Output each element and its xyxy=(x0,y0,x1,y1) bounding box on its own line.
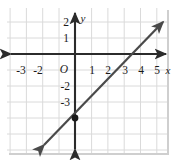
x-tick-label-1: 1 xyxy=(89,64,95,76)
coordinate-plane-figure: -3 -2 1 2 3 4 5 2 1 -2 -3 O x y xyxy=(0,0,175,161)
y-axis-label: y xyxy=(80,12,86,24)
x-axis-label: x xyxy=(165,64,171,76)
x-tick-label--2: -2 xyxy=(33,64,43,76)
x-tick-label-3: 3 xyxy=(122,64,128,76)
y-intercept-point xyxy=(72,115,79,122)
y-tick-label-1: 1 xyxy=(63,32,69,44)
x-tick-label--3: -3 xyxy=(16,64,26,76)
y-tick-label--2: -2 xyxy=(60,80,70,92)
y-tick-label-2: 2 xyxy=(63,16,69,28)
y-tick-label--3: -3 xyxy=(60,96,70,108)
x-tick-label-4: 4 xyxy=(138,64,144,76)
graph-svg: -3 -2 1 2 3 4 5 2 1 -2 -3 O x y xyxy=(0,0,175,161)
origin-label: O xyxy=(60,63,69,75)
x-tick-label-2: 2 xyxy=(105,64,111,76)
x-tick-label-5: 5 xyxy=(154,64,160,76)
plot-panel xyxy=(7,8,167,153)
